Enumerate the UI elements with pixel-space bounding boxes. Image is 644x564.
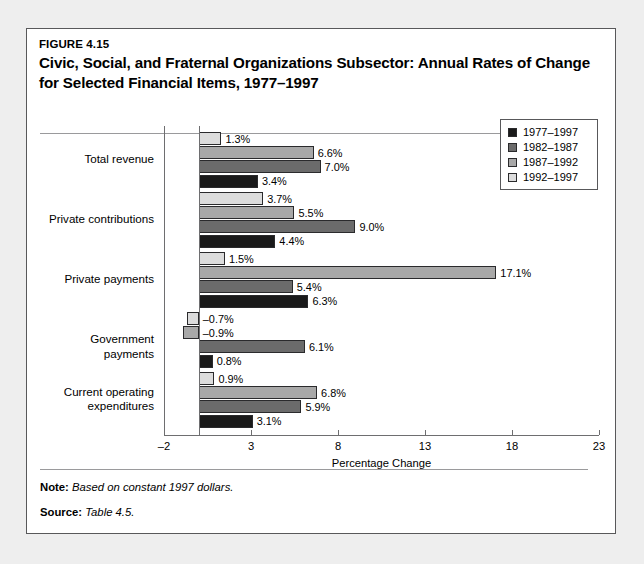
- zero-baseline: [199, 126, 200, 435]
- bar-value-label: 4.4%: [279, 235, 304, 248]
- x-axis-tick-label: –2: [144, 440, 184, 452]
- bar-value-label: 1.5%: [229, 253, 254, 266]
- category-label: Total revenue: [37, 152, 154, 167]
- bar-value-label: 6.3%: [312, 295, 337, 308]
- chart-bar: [199, 192, 263, 205]
- x-axis-tick-label: 3: [231, 440, 271, 452]
- legend-swatch-icon: [508, 143, 517, 152]
- chart-plot-area: Total revenue1.3%6.6%7.0%3.4%Private con…: [27, 29, 617, 535]
- chart-bar: [199, 132, 222, 145]
- x-axis-line: [164, 435, 599, 436]
- bar-value-label: 1.3%: [225, 133, 250, 146]
- note-text: Based on constant 1997 dollars.: [72, 481, 233, 493]
- x-axis-tick-label: 8: [318, 440, 358, 452]
- x-axis-tick: [425, 430, 426, 435]
- legend-swatch-icon: [508, 128, 517, 137]
- chart-bar: [199, 175, 258, 188]
- x-axis-tick: [599, 430, 600, 435]
- bar-value-label: 3.4%: [262, 175, 287, 188]
- x-axis-tick: [164, 430, 165, 435]
- chart-bar: [199, 415, 253, 428]
- chart-bar: [199, 160, 321, 173]
- legend-label: 1977–1997: [523, 126, 578, 138]
- x-axis-title: Percentage Change: [282, 457, 482, 469]
- note-line: Note: Based on constant 1997 dollars.: [40, 481, 233, 493]
- legend-item[interactable]: 1977–1997: [508, 125, 591, 139]
- bar-value-label: –0.7%: [203, 313, 234, 326]
- bar-value-label: 7.0%: [325, 161, 350, 174]
- bar-value-label: 6.8%: [321, 387, 346, 400]
- category-label: Current operating expenditures: [37, 385, 154, 414]
- x-axis-tick: [512, 430, 513, 435]
- chart-bar: [199, 280, 293, 293]
- bar-value-label: 3.7%: [267, 193, 292, 206]
- chart-bar: [187, 312, 199, 325]
- bar-value-label: 6.1%: [309, 341, 334, 354]
- legend-item[interactable]: 1982–1987: [508, 140, 591, 154]
- legend-swatch-icon: [508, 158, 517, 167]
- category-label: Private contributions: [37, 212, 154, 227]
- footer-divider: [40, 469, 588, 470]
- figure-card: FIGURE 4.15 Civic, Social, and Fraternal…: [26, 28, 616, 534]
- category-label: Government payments: [37, 332, 154, 361]
- source-line: Source: Table 4.5.: [40, 506, 134, 518]
- legend-label: 1982–1987: [523, 141, 578, 153]
- legend-item[interactable]: 1992–1997: [508, 170, 591, 184]
- bar-value-label: 5.4%: [297, 281, 322, 294]
- chart-bar: [199, 206, 295, 219]
- x-axis-tick: [251, 430, 252, 435]
- legend-label: 1987–1992: [523, 156, 578, 168]
- bar-value-label: 17.1%: [500, 267, 531, 280]
- bar-value-label: 5.9%: [305, 401, 330, 414]
- axis-left-spine: [164, 126, 165, 435]
- x-axis-tick-label: 23: [579, 440, 619, 452]
- chart-bar: [183, 326, 199, 339]
- chart-bar: [199, 266, 497, 279]
- bar-value-label: 3.1%: [257, 415, 282, 428]
- bar-value-label: 9.0%: [359, 221, 384, 234]
- chart-legend: 1977–19971982–19871987–19921992–1997: [500, 119, 598, 190]
- legend-swatch-icon: [508, 173, 517, 182]
- chart-bar: [199, 355, 213, 368]
- note-label: Note:: [40, 481, 69, 493]
- x-axis-tick-label: 18: [492, 440, 532, 452]
- bar-value-label: 0.8%: [217, 355, 242, 368]
- chart-bar: [199, 235, 276, 248]
- bar-value-label: 6.6%: [318, 147, 343, 160]
- bar-value-label: –0.9%: [203, 327, 234, 340]
- chart-bar: [199, 400, 302, 413]
- source-text: Table 4.5.: [85, 506, 134, 518]
- chart-bar: [199, 252, 225, 265]
- chart-bar: [199, 340, 305, 353]
- chart-bar: [199, 146, 314, 159]
- source-label: Source:: [40, 506, 82, 518]
- bar-value-label: 5.5%: [299, 207, 324, 220]
- x-axis-tick: [338, 430, 339, 435]
- chart-bar: [199, 295, 309, 308]
- x-axis-tick-label: 13: [405, 440, 445, 452]
- legend-item[interactable]: 1987–1992: [508, 155, 591, 169]
- chart-bar: [199, 372, 215, 385]
- category-label: Private payments: [37, 272, 154, 287]
- bar-value-label: 0.9%: [218, 373, 243, 386]
- legend-label: 1992–1997: [523, 171, 578, 183]
- chart-bar: [199, 220, 356, 233]
- chart-bar: [199, 386, 317, 399]
